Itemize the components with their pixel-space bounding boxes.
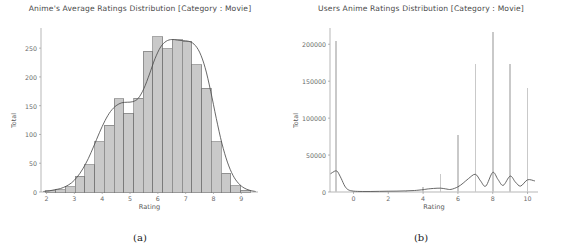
histogram-bar: [509, 64, 511, 192]
histogram-bar: [475, 64, 477, 192]
bar-group: [335, 32, 528, 192]
histogram-bar: [95, 142, 105, 192]
histogram-bar: [114, 99, 124, 192]
histogram-bar: [192, 65, 202, 192]
x-tick-label: 4: [100, 195, 104, 202]
histogram-bar: [231, 186, 241, 192]
histogram-bar: [221, 173, 231, 192]
histogram-bar: [172, 40, 182, 192]
histogram-bar: [56, 190, 66, 192]
x-tick-label: 3: [72, 195, 76, 202]
histogram-bar: [241, 190, 251, 192]
histogram-bar: [104, 125, 114, 192]
histogram-bar: [182, 41, 192, 192]
histogram-bar: [163, 49, 173, 192]
y-tick-label: 0: [0, 189, 37, 196]
y-tick-label: 100: [0, 131, 37, 138]
x-tick-label: 10: [524, 195, 532, 202]
histogram-bar: [527, 88, 529, 192]
y-tick-label: 100000: [281, 115, 326, 122]
histogram-bar: [335, 41, 337, 192]
histogram-bar: [202, 88, 212, 192]
y-tick-label: 200000: [281, 41, 326, 48]
x-tick-label: 6: [156, 195, 160, 202]
x-tick-label: 6: [456, 195, 460, 202]
figure-container: Anime's Average Ratings Distribution [Ca…: [0, 0, 561, 247]
bar-group: [46, 37, 250, 192]
x-tick-label: 4: [421, 195, 425, 202]
plot-area-b: [330, 28, 538, 192]
histogram-bar: [457, 135, 459, 192]
x-axis-label-b: Rating: [330, 203, 538, 211]
x-tick-label: 5: [128, 195, 132, 202]
y-tick-label: 50: [0, 160, 37, 167]
x-axis-label-a: Rating: [41, 203, 258, 211]
caption-b: (b): [281, 232, 561, 243]
histogram-bar: [124, 113, 134, 192]
y-tick-label: 200: [0, 73, 37, 80]
chart-title-a: Anime's Average Ratings Distribution [Ca…: [0, 4, 280, 13]
caption-a: (a): [0, 232, 280, 243]
kde-curve: [331, 171, 535, 192]
x-tick-label: 9: [239, 195, 243, 202]
histogram-svg-a: [41, 28, 258, 192]
panel-a: Anime's Average Ratings Distribution [Ca…: [0, 0, 280, 247]
y-tick-label: 250: [0, 45, 37, 52]
y-axis-label-a: Total: [10, 113, 18, 128]
histogram-bar: [85, 165, 95, 192]
x-tick-label: 8: [211, 195, 215, 202]
chart-title-b: Users Anime Ratings Distribution [Catego…: [281, 4, 561, 13]
x-tick-label: 2: [386, 195, 390, 202]
x-tick-label: 0: [351, 195, 355, 202]
histogram-bar: [440, 174, 442, 192]
y-tick-label: 150000: [281, 78, 326, 85]
y-tick-label: 0: [281, 189, 326, 196]
y-tick-label: 150: [0, 102, 37, 109]
histogram-bar: [75, 176, 85, 192]
x-tick-label: 7: [184, 195, 188, 202]
x-tick-label: 2: [45, 195, 49, 202]
y-tick-label: 50000: [281, 152, 326, 159]
histogram-bar: [134, 98, 144, 192]
panel-b: Users Anime Ratings Distribution [Catego…: [281, 0, 561, 247]
histogram-bar: [65, 187, 75, 192]
plot-area-a: [41, 28, 258, 192]
histogram-bar: [211, 142, 221, 192]
histogram-bar: [492, 32, 494, 192]
histogram-bar: [143, 51, 153, 192]
x-tick-label: 8: [491, 195, 495, 202]
histogram-svg-b: [330, 28, 538, 192]
